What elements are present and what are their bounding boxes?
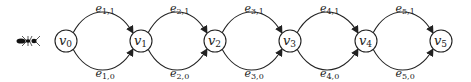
edge-v1-v2-lower — [148, 49, 207, 70]
edge-label-upper: e5,1 — [396, 2, 415, 16]
ant-icon — [17, 36, 41, 46]
edge-v4-v5-lower — [373, 49, 433, 70]
node-v0: v0 — [55, 30, 77, 52]
edge-v0-v1-lower — [73, 49, 133, 70]
edge-label-upper: e4,1 — [320, 2, 339, 16]
node-v4: v4 — [355, 30, 377, 52]
edge-label-upper: e2,1 — [170, 2, 189, 16]
node-v1: v1 — [130, 30, 152, 52]
node-v5: v5 — [430, 30, 452, 52]
graph-diagram: e1,1e1,0e2,1e2,0e3,1e3,0e4,1e4,0e5,1e5,0… — [0, 0, 471, 82]
edge-v3-v4-lower — [297, 49, 358, 70]
edge-v2-v3-lower — [222, 49, 282, 70]
edge-label-upper: e1,1 — [96, 2, 115, 16]
edge-label-lower: e4,0 — [320, 67, 339, 81]
edge-label-lower: e2,0 — [170, 67, 189, 81]
edge-label-upper: e3,1 — [245, 2, 264, 16]
node-v3: v3 — [279, 30, 301, 52]
node-v2: v2 — [204, 30, 226, 52]
